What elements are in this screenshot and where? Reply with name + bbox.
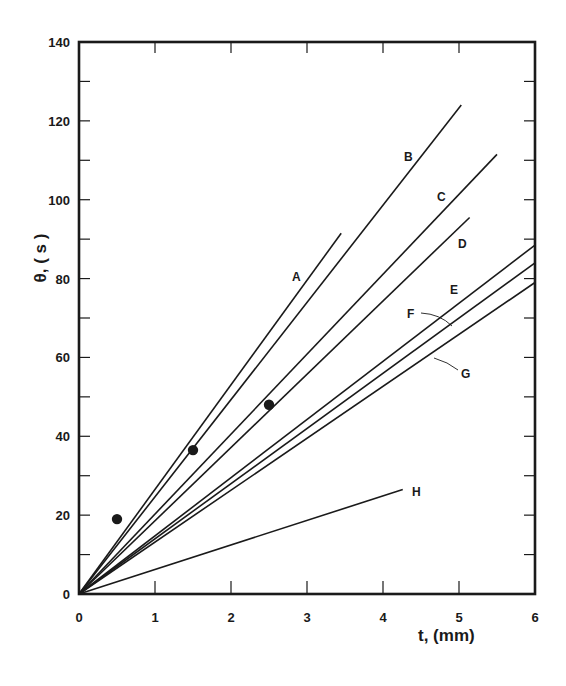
x-axis-title: t, (mm)	[418, 626, 475, 645]
line-labels: ABCDEFGH	[292, 150, 470, 499]
y-tick-label: 80	[56, 272, 70, 287]
series-line-f	[79, 263, 535, 594]
x-tick-label: 5	[455, 610, 462, 625]
x-tick-label: 0	[75, 610, 82, 625]
line-label-e: E	[450, 283, 458, 297]
series-line-g	[79, 283, 535, 594]
chart: 0123456020406080100120140 ABCDEFGH t, (m…	[0, 0, 566, 686]
line-label-f: F	[407, 307, 414, 321]
series-line-a	[79, 233, 341, 594]
series-line-c	[79, 154, 497, 594]
series-lines	[79, 105, 535, 594]
plot-border	[79, 42, 535, 594]
line-label-b: B	[404, 150, 413, 164]
line-label-h: H	[412, 485, 421, 499]
y-tick-label: 0	[63, 587, 70, 602]
scatter-points	[112, 400, 274, 525]
line-label-a: A	[292, 270, 301, 284]
plot-frame	[79, 42, 535, 594]
axis-ticks	[79, 42, 535, 594]
y-axis-title: θ, ( s )	[31, 234, 50, 283]
y-tick-label: 100	[48, 193, 70, 208]
series-line-h	[79, 490, 403, 594]
y-tick-label: 40	[56, 429, 70, 444]
line-label-d: D	[458, 237, 467, 251]
x-tick-label: 1	[151, 610, 158, 625]
series-line-e	[79, 245, 535, 594]
y-tick-label: 20	[56, 508, 70, 523]
series-line-b	[79, 105, 461, 594]
y-tick-label: 60	[56, 350, 70, 365]
line-label-g: G	[461, 367, 470, 381]
line-label-c: C	[437, 190, 446, 204]
leader-line-g	[434, 358, 458, 370]
data-point	[112, 514, 122, 524]
x-tick-label: 4	[379, 610, 387, 625]
data-point	[188, 445, 198, 455]
x-tick-label: 3	[303, 610, 310, 625]
y-tick-label: 120	[48, 114, 70, 129]
series-line-d	[79, 217, 470, 594]
y-tick-label: 140	[48, 35, 70, 50]
x-tick-label: 6	[531, 610, 538, 625]
data-point	[264, 400, 274, 410]
x-tick-label: 2	[227, 610, 234, 625]
